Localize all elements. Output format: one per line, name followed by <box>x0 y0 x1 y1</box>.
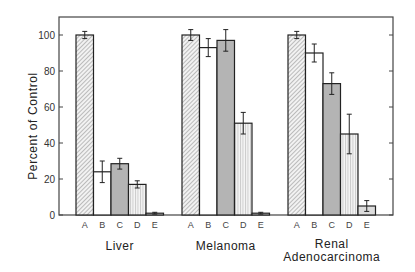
x-tick-label: C <box>117 220 124 230</box>
bar-C <box>111 164 129 215</box>
group-label: Renal <box>315 237 349 251</box>
x-tick-label: B <box>205 220 211 230</box>
x-tick-label: B <box>99 220 105 230</box>
bar-chart: 020406080100 ABCDELiverABCDEMelanomaABCD… <box>0 0 415 272</box>
x-tick-label: E <box>258 220 264 230</box>
bar-A <box>288 35 306 215</box>
group-label: Melanoma <box>196 239 256 253</box>
x-tick-label: A <box>294 220 300 230</box>
x-tick-label: A <box>82 220 88 230</box>
x-tick-label: D <box>240 220 247 230</box>
x-axis-labels: ABCDELiverABCDEMelanomaABCDERenalAdenoca… <box>82 220 381 264</box>
bar-C <box>217 40 235 215</box>
x-tick-label: A <box>188 220 194 230</box>
x-tick-label: D <box>346 220 353 230</box>
x-tick-label: D <box>134 220 141 230</box>
bar-group-melanoma <box>182 30 270 215</box>
bar-C <box>323 84 341 215</box>
bar-D <box>129 184 147 215</box>
y-tick-label: 100 <box>38 30 55 41</box>
group-label: Liver <box>105 239 134 253</box>
x-tick-label: E <box>364 220 370 230</box>
x-tick-label: C <box>329 220 336 230</box>
y-tick-label: 0 <box>49 210 55 221</box>
x-tick-label: C <box>223 220 230 230</box>
bar-D <box>235 123 253 215</box>
bars <box>76 30 376 215</box>
bar-A <box>76 35 94 215</box>
y-tick-label: 80 <box>44 66 56 77</box>
bar-B <box>306 53 324 215</box>
y-tick-label: 20 <box>44 174 56 185</box>
y-tick-label: 60 <box>44 102 56 113</box>
y-tick-label: 40 <box>44 138 56 149</box>
bar-A <box>182 35 200 215</box>
group-label: Adenocarcinoma <box>283 250 380 264</box>
bar-B <box>200 48 218 215</box>
y-axis-label: Percent of Control <box>26 72 40 180</box>
bar-group-renal-adenocarcinoma <box>288 31 376 215</box>
x-tick-label: B <box>311 220 317 230</box>
x-tick-label: E <box>152 220 158 230</box>
bar-group-liver <box>76 31 164 215</box>
